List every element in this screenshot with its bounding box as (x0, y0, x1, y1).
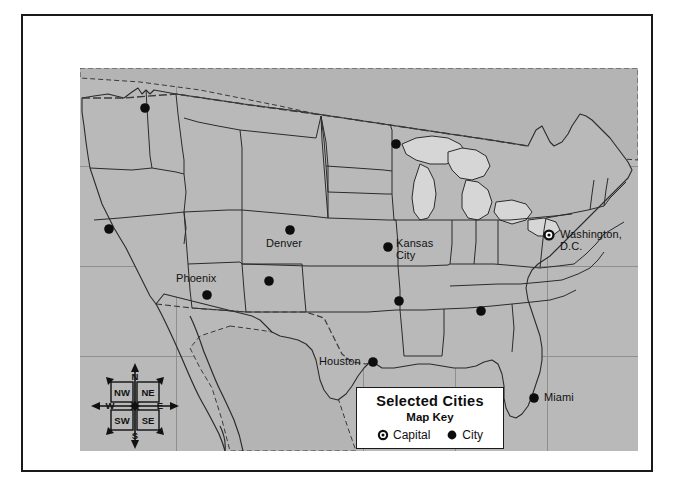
compass-label-e: E (157, 400, 163, 411)
city-marker[interactable] (529, 393, 539, 403)
city-marker[interactable] (264, 276, 274, 286)
city-marker[interactable] (202, 290, 212, 300)
compass-label-se: SE (142, 415, 155, 426)
capital-marker-icon (377, 429, 389, 441)
compass-label-sw: SW (114, 415, 129, 426)
city-marker[interactable] (391, 139, 401, 149)
city-label: Miami (544, 392, 574, 404)
legend-items: Capital City (357, 428, 503, 442)
legend-label-capital: Capital (393, 428, 430, 442)
map-page: DenverKansas CityPhoenixHoustonMiamiWash… (0, 0, 675, 496)
city-label: Phoenix (176, 273, 216, 285)
city-label: Denver (266, 238, 302, 250)
city-label: Kansas City (396, 238, 433, 261)
compass-label-ne: NE (141, 387, 154, 398)
city-marker[interactable] (394, 296, 404, 306)
city-label: Houston (319, 356, 361, 368)
capital-marker[interactable] (543, 229, 554, 240)
compass-label-nw: NW (114, 387, 130, 398)
compass-label-w: W (106, 400, 115, 411)
legend-title: Selected Cities (357, 393, 503, 409)
city-marker[interactable] (140, 103, 150, 113)
compass-label-s: S (132, 430, 138, 441)
city-marker[interactable] (285, 225, 295, 235)
city-marker[interactable] (104, 224, 114, 234)
city-marker[interactable] (383, 242, 393, 252)
compass-rose: NW NE SW SE N S W E (89, 361, 181, 451)
legend-label-city: City (462, 428, 483, 442)
city-marker[interactable] (368, 357, 378, 367)
city-marker[interactable] (476, 306, 486, 316)
map-canvas: DenverKansas CityPhoenixHoustonMiamiWash… (80, 68, 638, 451)
map-legend: Selected Cities Map Key Capital (356, 387, 504, 449)
city-label: Washington, D.C. (560, 229, 638, 252)
legend-item-capital: Capital (377, 428, 430, 442)
city-marker-icon (446, 429, 458, 441)
legend-subtitle: Map Key (357, 411, 503, 423)
legend-item-city: City (446, 428, 483, 442)
compass-label-n: N (132, 371, 139, 382)
map-frame-border: DenverKansas CityPhoenixHoustonMiamiWash… (21, 14, 653, 472)
